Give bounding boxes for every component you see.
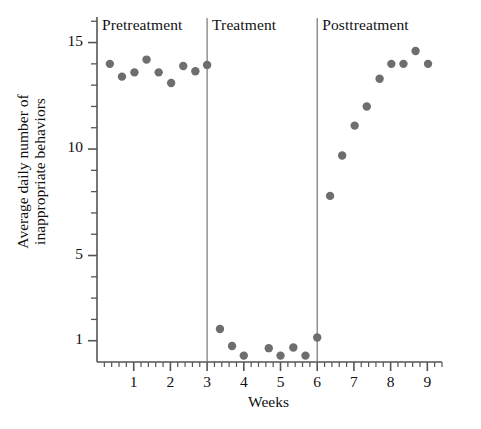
y-axis-tick-label: 1	[51, 330, 83, 348]
y-axis-title-line2: inappropriate behaviors	[31, 0, 48, 344]
data-point	[203, 61, 211, 69]
data-points-group	[106, 47, 433, 360]
x-axis-tick-label: 1	[118, 373, 150, 391]
data-point	[424, 60, 432, 68]
data-point	[216, 325, 224, 333]
data-point	[411, 47, 419, 55]
data-point	[326, 192, 334, 200]
phase-label-posttreatment: Posttreatment	[322, 16, 409, 34]
data-point	[228, 342, 236, 350]
y-axis-title: Average daily number of inappropriate be…	[14, 0, 49, 344]
data-point	[276, 351, 284, 359]
data-point	[301, 351, 309, 359]
phase-label-treatment: Treatment	[212, 16, 276, 34]
data-point	[142, 55, 150, 63]
chart-figure: 151015123456789PretreatmentTreatmentPost…	[0, 0, 481, 429]
data-point	[338, 151, 346, 159]
data-point	[363, 102, 371, 110]
data-point	[240, 351, 248, 359]
x-axis-tick-label: 9	[411, 373, 443, 391]
x-axis-tick-label: 2	[154, 373, 186, 391]
y-axis-tick-label: 10	[51, 138, 83, 156]
x-axis-tick-label: 3	[191, 373, 223, 391]
data-point	[191, 67, 199, 75]
scatter-plot-canvas	[0, 0, 481, 429]
data-point	[179, 62, 187, 70]
data-point	[289, 343, 297, 351]
data-point	[265, 344, 273, 352]
x-axis-title: Weeks	[28, 393, 481, 411]
phase-label-pretreatment: Pretreatment	[102, 16, 182, 34]
y-axis-title-line1: Average daily number of	[14, 0, 31, 344]
data-point	[106, 60, 114, 68]
data-point	[154, 68, 162, 76]
data-point	[350, 121, 358, 129]
y-axis-tick-label: 15	[51, 32, 83, 50]
x-axis-tick-label: 7	[338, 373, 370, 391]
x-axis-tick-label: 5	[265, 373, 297, 391]
axes-group	[88, 17, 442, 371]
data-point	[118, 72, 126, 80]
data-point	[313, 333, 321, 341]
x-axis-tick-label: 4	[228, 373, 260, 391]
phase-divider-lines	[207, 18, 317, 362]
x-axis-tick-label: 8	[375, 373, 407, 391]
data-point	[399, 60, 407, 68]
y-axis-tick-label: 5	[51, 245, 83, 263]
data-point	[167, 79, 175, 87]
data-point	[387, 60, 395, 68]
data-point	[375, 75, 383, 83]
data-point	[130, 68, 138, 76]
x-axis-tick-label: 6	[301, 373, 333, 391]
